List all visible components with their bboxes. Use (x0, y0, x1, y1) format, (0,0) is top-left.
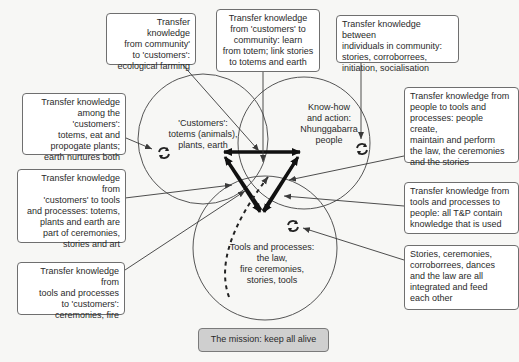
box-tools-to-customers: Transfer knowledge from tools and proces… (17, 262, 125, 315)
box-tools-to-people: Transfer knowledge from tools and proces… (404, 182, 519, 234)
box-community-to-customers: Transfer knowledge from community' to 'c… (106, 13, 196, 65)
box-between-individuals: Transfer knowledge between individuals i… (336, 15, 459, 63)
box-people-to-tools: Transfer knowledge from people to tools … (404, 87, 519, 163)
customers-circle-label: 'Customers': totems (animals), plants, e… (158, 118, 248, 151)
box-customers-to-tools: Transfer knowledge from 'customers' to t… (17, 169, 126, 243)
box-customers-to-community: Transfer knowledge from 'customers' to c… (216, 9, 320, 72)
box-integrated: Stories, ceremonies, corroborrees, dance… (404, 245, 519, 310)
box-among-customers: Transfer knowledge among the 'customers'… (22, 93, 126, 155)
people-circle-label: Know-how and action: Nhunggabarra people (290, 102, 368, 146)
tools-circle-label: Tools and processes: the law, fire cerem… (222, 242, 322, 286)
mission-box: The mission: keep all alive (198, 328, 329, 352)
circular-arrows-icon (288, 220, 298, 232)
